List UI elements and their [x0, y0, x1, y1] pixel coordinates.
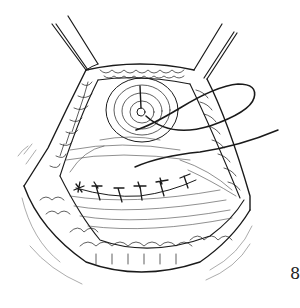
suture-row	[74, 174, 196, 202]
right-retractor	[194, 24, 237, 79]
wound-outline	[24, 64, 250, 272]
left-retractor	[52, 16, 98, 70]
purse-string-structure	[106, 78, 178, 142]
inner-wound-edge	[60, 78, 244, 248]
figure-label: 8	[290, 266, 300, 282]
skin-contours	[18, 144, 252, 284]
surgical-illustration	[0, 0, 300, 308]
